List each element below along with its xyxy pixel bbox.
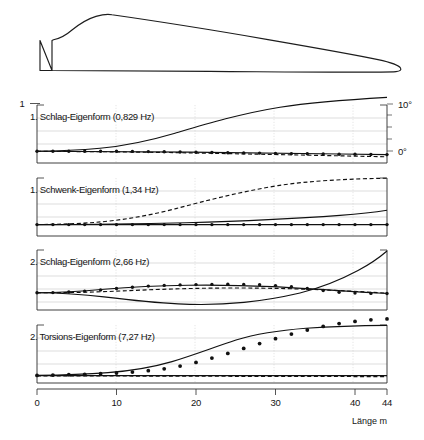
blade-planform: [40, 14, 401, 72]
y-axis-right-top-label: 10°: [398, 99, 412, 110]
x-tick-0: 0: [34, 397, 39, 408]
x-axis-label: Länge m: [352, 416, 387, 426]
panel-4-torsion-2: 2. Torsions-Eigenform (7,27 Hz): [30, 317, 389, 383]
panel-4-curves: [35, 317, 389, 377]
panel-1-schlag: 1 10° 0° 1. Schlag-Eigenform (0,829 Hz): [19, 97, 412, 163]
panel-1-title: 1. Schlag-Eigenform (0,829 Hz): [30, 111, 154, 122]
x-tick-30: 30: [270, 397, 280, 408]
panel-4-markers: [35, 317, 389, 377]
panel-1-curves: [35, 97, 388, 156]
blade-eigenmodes-figure: 1 10° 0° 1. Schlag-Eigenform (0,829 Hz): [0, 0, 424, 440]
panel-3-title: 2. Schlag-Eigenform (2,66 Hz): [30, 256, 149, 267]
x-tick-40: 40: [350, 397, 360, 408]
x-tick-44: 44: [382, 397, 392, 408]
x-axis: 0 10 20 30 40 44 Länge m: [34, 389, 392, 426]
panel-3-schlag-2: 2. Schlag-Eigenform (2,66 Hz): [30, 250, 389, 310]
panel-1-curve-schlag: [37, 97, 387, 151]
blade-outline: [40, 14, 401, 72]
panel-4-title: 2. Torsions-Eigenform (7,27 Hz): [30, 331, 155, 342]
panel-2-title: 1. Schwenk-Eigenform (1,34 Hz): [30, 184, 158, 195]
y-axis-left-label: 1: [19, 98, 24, 109]
panel-2-schwenk: 1. Schwenk-Eigenform (1,34 Hz): [30, 178, 389, 236]
y-axis-right-bottom-label: 0°: [398, 146, 407, 157]
x-tick-10: 10: [111, 397, 121, 408]
panel-2-curve-schlag: [37, 210, 387, 224]
x-tick-20: 20: [191, 397, 201, 408]
